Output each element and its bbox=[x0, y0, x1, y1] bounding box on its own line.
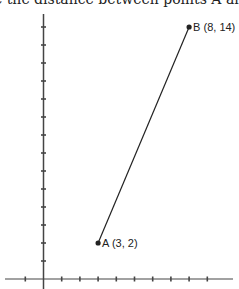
coordinate-plane: A (3, 2)B (8, 14) bbox=[0, 0, 239, 289]
line-segments bbox=[98, 27, 189, 243]
point-a-label: A (3, 2) bbox=[102, 237, 137, 249]
points: A (3, 2)B (8, 14) bbox=[96, 21, 236, 249]
point-b-label: B (8, 14) bbox=[193, 21, 235, 33]
point-a-dot bbox=[96, 240, 101, 245]
point-b-dot bbox=[187, 24, 192, 29]
segment-AB bbox=[98, 27, 189, 243]
